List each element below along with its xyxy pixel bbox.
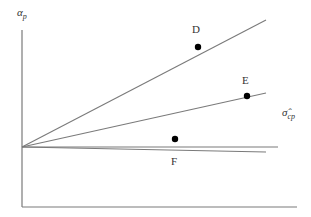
point-f [172, 136, 178, 142]
ray-e [22, 93, 266, 147]
x-axis-label-sub: cp [287, 112, 295, 121]
point-label-e: E [242, 74, 249, 86]
point-label-f: F [171, 155, 177, 167]
ray-d [22, 20, 266, 147]
ray-f [22, 147, 266, 152]
point-e [244, 93, 250, 99]
diagram-canvas: D E F αp σ̂cp [0, 0, 311, 217]
point-d [195, 44, 201, 50]
x-axis-label: σ̂cp [282, 106, 295, 121]
y-axis-label-sub: p [22, 12, 27, 21]
y-axis-label: αp [17, 6, 27, 21]
point-label-d: D [192, 23, 200, 35]
